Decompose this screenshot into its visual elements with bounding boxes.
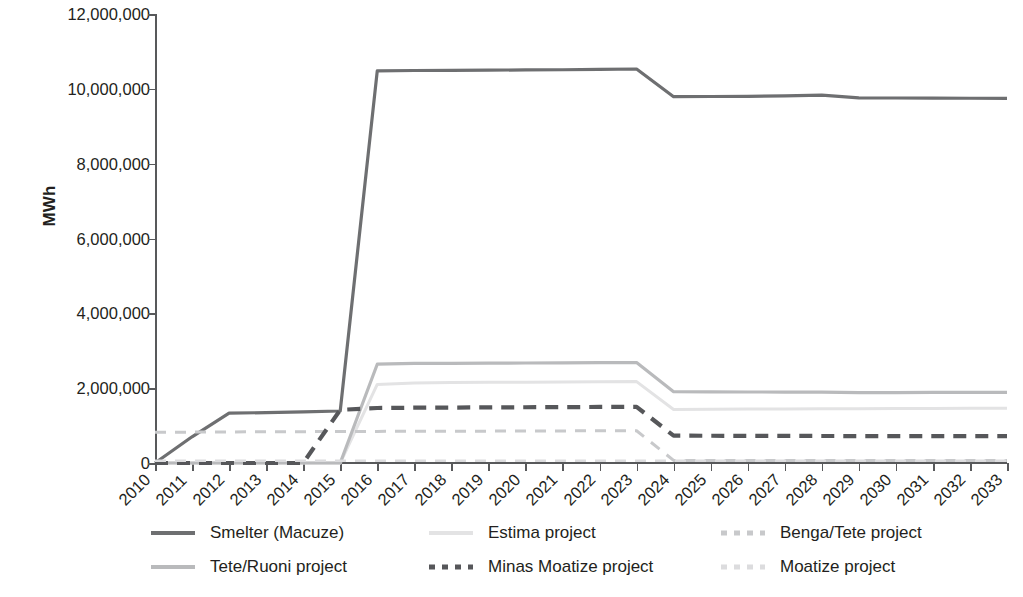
legend-item[interactable]: Minas Moatize project <box>428 558 653 575</box>
x-tick-label: 2024 <box>634 470 673 509</box>
y-tick-label: 10,000,000 <box>28 81 150 97</box>
legend-swatch-icon <box>428 560 474 574</box>
y-tick-mark <box>148 89 155 91</box>
legend-row: Tete/Ruoni projectMinas Moatize projectM… <box>150 558 1010 590</box>
plot-area <box>155 14 1007 463</box>
legend-item[interactable]: Smelter (Macuze) <box>150 524 344 541</box>
x-tick-label: 2030 <box>856 470 895 509</box>
x-tick-label: 2022 <box>560 470 599 509</box>
x-tick-label: 2019 <box>448 470 487 509</box>
legend-item[interactable]: Moatize project <box>720 558 895 575</box>
legend-label: Tete/Ruoni project <box>210 558 347 575</box>
x-tick-label: 2023 <box>597 470 636 509</box>
legend-label: Minas Moatize project <box>488 558 653 575</box>
y-tick-label: 2,000,000 <box>28 380 150 396</box>
x-tick-label: 2020 <box>485 470 524 509</box>
y-tick-label: 4,000,000 <box>28 305 150 321</box>
x-tick-label: 2014 <box>263 470 302 509</box>
legend-item[interactable]: Benga/Tete project <box>720 524 922 541</box>
legend-swatch-icon <box>720 560 766 574</box>
y-tick-mark <box>148 313 155 315</box>
legend-item[interactable]: Tete/Ruoni project <box>150 558 347 575</box>
legend-swatch-icon <box>720 526 766 540</box>
chart-legend: Smelter (Macuze)Estima projectBenga/Tete… <box>150 524 1010 594</box>
y-tick-mark <box>148 388 155 390</box>
x-tick-label: 2012 <box>189 470 228 509</box>
x-tick-label: 2026 <box>708 470 747 509</box>
x-tick-label: 2032 <box>930 470 969 509</box>
x-tick-label: 2025 <box>671 470 710 509</box>
y-tick-mark <box>148 14 155 16</box>
series-line <box>155 431 1007 461</box>
legend-swatch-icon <box>428 526 474 540</box>
x-tick-label: 2015 <box>300 470 339 509</box>
legend-label: Smelter (Macuze) <box>210 524 344 541</box>
x-tick-label: 2029 <box>819 470 858 509</box>
y-tick-label: 0 <box>28 455 150 471</box>
y-tick-label: 12,000,000 <box>28 6 150 22</box>
legend-row: Smelter (Macuze)Estima projectBenga/Tete… <box>150 524 1010 556</box>
x-tick-label: 2033 <box>967 470 1006 509</box>
x-tick-label: 2018 <box>411 470 450 509</box>
chart-root: MWh 12,000,00010,000,0008,000,0006,000,0… <box>0 0 1023 597</box>
x-tick-label: 2016 <box>337 470 376 509</box>
legend-item[interactable]: Estima project <box>428 524 596 541</box>
x-tick-label: 2031 <box>893 470 932 509</box>
legend-label: Benga/Tete project <box>780 524 922 541</box>
x-tick-label: 2028 <box>782 470 821 509</box>
x-tick-label: 2017 <box>374 470 413 509</box>
y-tick-mark <box>148 239 155 241</box>
x-tick-label: 2011 <box>152 471 191 510</box>
legend-swatch-icon <box>150 526 196 540</box>
x-tick-label: 2021 <box>522 470 561 509</box>
series-lines <box>155 14 1007 463</box>
series-line <box>155 69 1007 463</box>
legend-label: Estima project <box>488 524 596 541</box>
x-tick-label: 2027 <box>745 470 784 509</box>
y-tick-mark <box>148 164 155 166</box>
legend-label: Moatize project <box>780 558 895 575</box>
y-tick-label: 6,000,000 <box>28 231 150 247</box>
x-tick-label: 2013 <box>226 470 265 509</box>
legend-swatch-icon <box>150 560 196 574</box>
y-tick-label: 8,000,000 <box>28 156 150 172</box>
series-line <box>155 407 1007 463</box>
y-tick-mark <box>148 463 155 465</box>
